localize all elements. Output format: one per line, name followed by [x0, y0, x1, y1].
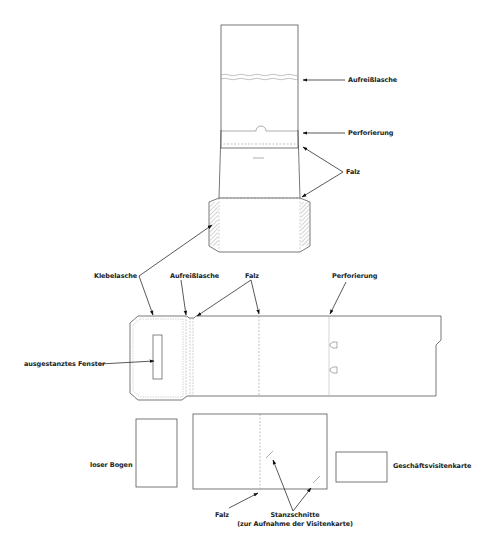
arrow-mid-falz-1	[197, 280, 251, 316]
blank-outline	[130, 316, 441, 400]
label-bottom-falz: Falz	[215, 511, 229, 519]
business-card	[336, 452, 387, 482]
arrow-mid-perforierung	[330, 282, 346, 314]
label-mid-perforierung: Perforierung	[332, 272, 377, 280]
box-bottom-panel	[209, 198, 310, 252]
label-stanzschnitte-note: (zur Aufnahme der Visitenkarte)	[237, 520, 353, 528]
label-stanzschnitte: Stanzschnitte	[270, 511, 319, 519]
label-mid-aufreisslasche: Aufreißlasche	[170, 272, 219, 280]
box-upper-panel	[221, 25, 298, 148]
tear-strip-line	[221, 74, 298, 76]
arrow-klebelasche	[139, 276, 153, 315]
arrow-stanzschnitte-1	[273, 460, 293, 511]
tab-2	[330, 367, 337, 373]
arrow-klebelasche-top	[139, 225, 212, 276]
glue-flap-left	[209, 202, 218, 246]
punched-window	[153, 335, 162, 379]
loose-sheet	[136, 419, 177, 487]
label-fenster: ausgestanztes Fenster	[24, 360, 105, 368]
die-cut-2	[313, 476, 320, 483]
label-mid-falz: Falz	[245, 272, 259, 280]
label-top-perforierung: Perforierung	[348, 129, 393, 137]
arrow-top-falz-1	[303, 147, 343, 172]
label-top-falz: Falz	[346, 168, 360, 176]
perforation-line	[221, 126, 298, 131]
arrow-fenster	[100, 361, 154, 364]
label-loser-bogen: loser Bogen	[90, 461, 132, 469]
arrow-top-falz-2	[302, 172, 343, 197]
arrow-mid-aufreisslasche	[181, 280, 186, 315]
flat-blank	[130, 316, 441, 400]
die-cut-1	[266, 451, 273, 458]
label-visitenkarte: Geschäftsvisitenkarte	[393, 462, 471, 470]
tab-1	[330, 342, 337, 348]
label-klebelasche: Klebelasche	[94, 272, 137, 280]
arrow-bottom-falz	[229, 493, 258, 508]
label-top-aufreisslasche: Aufreißlasche	[348, 76, 397, 84]
arrow-mid-falz-2	[251, 280, 259, 314]
arrow-stanzschnitte-2	[293, 488, 311, 511]
glue-flap-right	[301, 202, 310, 246]
assembled-box	[209, 25, 310, 252]
